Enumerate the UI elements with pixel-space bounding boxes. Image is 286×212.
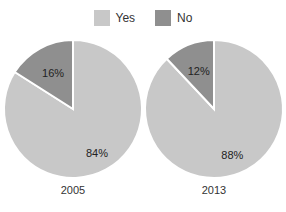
- pie-2013: 88%12%: [145, 40, 283, 178]
- pie-title-2005: 2005: [43, 184, 103, 196]
- slice-label-no: 12%: [188, 65, 210, 77]
- pie-2005: 84%16%: [4, 40, 142, 178]
- pie-title-2013: 2013: [184, 184, 244, 196]
- pie-charts: 84%16% 88%12%: [0, 0, 286, 212]
- slice-label-yes: 84%: [86, 147, 108, 159]
- slice-label-no: 16%: [42, 67, 64, 79]
- slice-label-yes: 88%: [221, 149, 243, 161]
